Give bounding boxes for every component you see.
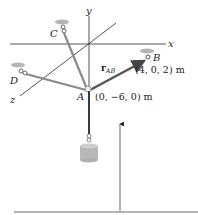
point-c-label: C: [50, 28, 58, 39]
point-a-coords: (0, −6, 0) m: [95, 91, 153, 102]
cable-ac: [64, 33, 87, 89]
force-diagram: y x z C B D A (4, 0, 2) m (0, −6, 0) m r…: [0, 0, 198, 215]
weight-cylinder: [80, 144, 98, 163]
support-disc-c: [55, 20, 69, 25]
point-b-coords: (4, 0, 2) m: [135, 64, 185, 75]
point-b-label: B: [152, 52, 160, 63]
support-disc-d: [11, 63, 25, 68]
point-d-label: D: [9, 75, 18, 86]
y-axis-label: y: [85, 5, 92, 16]
hook: [87, 134, 91, 142]
ring-c: [61, 25, 66, 33]
ring-b: [146, 55, 150, 59]
x-axis-label: x: [168, 38, 174, 49]
ring-d: [19, 69, 27, 75]
z-axis-label: z: [9, 94, 16, 105]
axes: [10, 16, 166, 96]
cable-ad: [26, 74, 86, 90]
point-a-label: A: [76, 91, 84, 102]
vector-r-ab-label: rAB: [101, 63, 115, 75]
support-disc-b: [140, 49, 154, 54]
